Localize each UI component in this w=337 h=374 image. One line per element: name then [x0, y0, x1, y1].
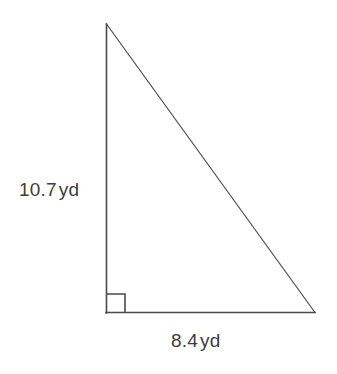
horizontal-leg-unit: yd — [200, 330, 220, 351]
vertical-leg-length: 10.7 — [19, 179, 57, 200]
vertical-leg-label: 10.7yd — [19, 180, 79, 199]
horizontal-leg-length: 8.4 — [171, 330, 198, 351]
vertical-leg-unit: yd — [59, 179, 79, 200]
right-angle-marker-icon — [107, 294, 125, 313]
hypotenuse-line — [107, 24, 316, 313]
horizontal-leg-label: 8.4yd — [171, 331, 220, 350]
right-triangle-figure: 10.7yd 8.4yd — [0, 0, 337, 374]
